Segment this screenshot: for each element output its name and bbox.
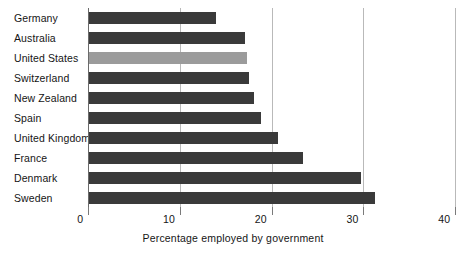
- bar: [89, 52, 247, 64]
- category-label: Denmark: [14, 168, 86, 188]
- axis-tick-label: 30: [347, 213, 364, 225]
- value-axis: 010203040: [88, 207, 475, 229]
- category-label: Spain: [14, 108, 86, 128]
- category-axis-labels: GermanyAustraliaUnited StatesSwitzerland…: [0, 0, 86, 214]
- category-label: Germany: [14, 8, 86, 28]
- category-label: Sweden: [14, 188, 86, 208]
- axis-tick-mark: [180, 207, 181, 215]
- axis-tick-label: 40: [438, 213, 455, 225]
- category-label: Australia: [14, 28, 86, 48]
- bar: [89, 172, 361, 184]
- gridline: [363, 8, 364, 207]
- bar: [89, 32, 245, 44]
- bar: [89, 152, 303, 164]
- gridline: [455, 8, 456, 207]
- category-label: Switzerland: [14, 68, 86, 88]
- axis-tick-mark: [455, 207, 456, 215]
- axis-tick-mark: [272, 207, 273, 215]
- axis-tick-label: 0: [77, 213, 88, 225]
- bar-chart: GermanyAustraliaUnited StatesSwitzerland…: [0, 0, 475, 266]
- bar: [89, 192, 375, 204]
- category-label: France: [14, 148, 86, 168]
- axis-tick-mark: [363, 207, 364, 215]
- category-label: United States: [14, 48, 86, 68]
- axis-tick-label: 10: [163, 213, 180, 225]
- axis-tick-label: 20: [255, 213, 272, 225]
- axis-tick-mark: [88, 207, 89, 215]
- bar: [89, 112, 261, 124]
- bar: [89, 92, 254, 104]
- bar: [89, 132, 278, 144]
- x-axis-title: Percentage employed by government: [88, 232, 378, 244]
- bar: [89, 72, 249, 84]
- category-label: United Kingdom: [14, 128, 86, 148]
- category-label: New Zealand: [14, 88, 86, 108]
- plot-area: [88, 8, 475, 207]
- bar: [89, 12, 216, 24]
